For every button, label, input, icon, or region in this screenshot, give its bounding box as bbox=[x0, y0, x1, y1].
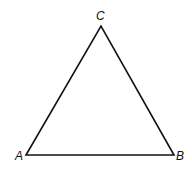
triangle-abc bbox=[26, 26, 174, 155]
vertex-label-a: A bbox=[14, 149, 23, 163]
vertex-label-c: C bbox=[96, 9, 105, 23]
triangle-diagram: A B C bbox=[0, 0, 192, 169]
vertex-label-b: B bbox=[176, 149, 184, 163]
